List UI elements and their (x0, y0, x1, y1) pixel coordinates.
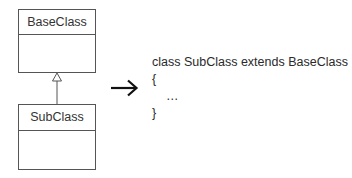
right-arrow-icon (111, 81, 137, 96)
code-snippet: class SubClass extends BaseClass { … } (152, 55, 348, 121)
code-line-close-brace: } (152, 106, 348, 121)
code-line-open-brace: { (152, 72, 348, 87)
code-line-declaration: class SubClass extends BaseClass (152, 55, 348, 70)
code-line-ellipsis: … (152, 89, 348, 104)
inheritance-arrow-icon (53, 73, 62, 104)
